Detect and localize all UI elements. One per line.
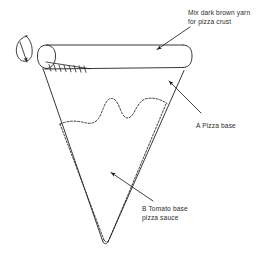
crust-label: Mix dark brown yarn for pizza crust: [188, 9, 250, 26]
tomato-sauce-label: B Tomato base pizza sauce: [142, 205, 188, 222]
crust-stitch-row: [46, 62, 90, 72]
leader-lines: [111, 27, 201, 201]
pizza-crust-tube: [38, 45, 193, 69]
diagram-page: Mix dark brown yarn for pizza crust A Pi…: [0, 0, 267, 255]
yarn-loop-icon: [16, 36, 32, 62]
tomato-sauce-wavy-edge: [60, 98, 167, 124]
pizza-base-label: A Pizza base: [196, 122, 236, 131]
